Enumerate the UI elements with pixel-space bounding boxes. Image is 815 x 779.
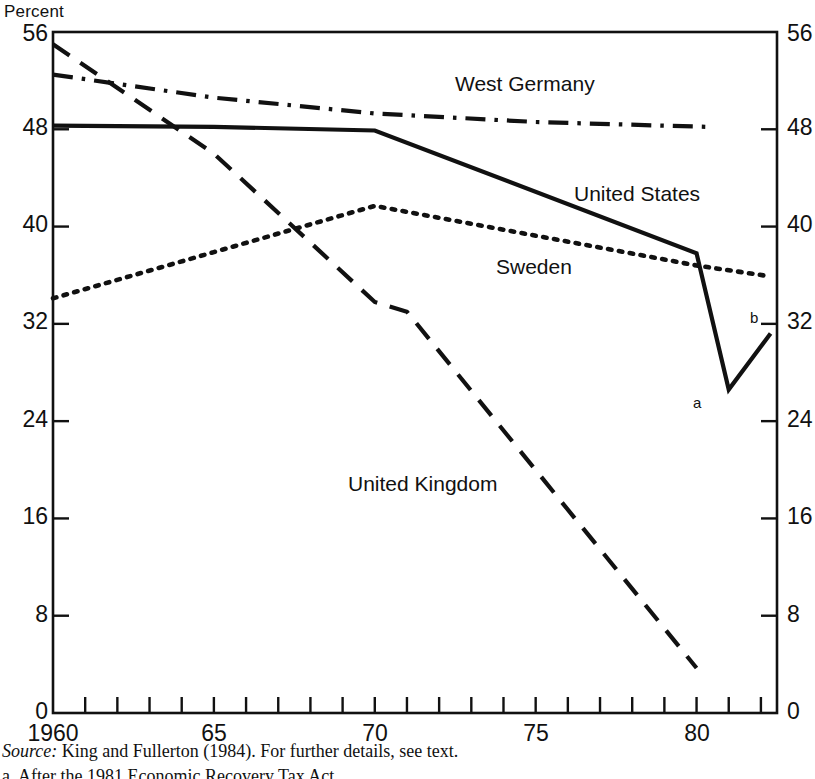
footnote-a: a. After the 1981 Economic Recovery Tax … <box>2 766 339 779</box>
source-note-prefix: Source: <box>2 741 57 761</box>
x-axis-ticks <box>85 697 761 713</box>
data-series-lines <box>53 44 771 668</box>
plot-area <box>0 0 815 779</box>
y-axis-ticks <box>53 129 777 615</box>
source-note: Source: King and Fullerton (1984). For f… <box>2 741 458 762</box>
series-line-west-germany <box>53 75 706 127</box>
source-note-text: King and Fullerton (1984). For further d… <box>62 741 458 761</box>
chart-figure: Percent 56 48 40 32 24 16 8 0 56 48 40 3… <box>0 0 815 779</box>
series-line-united-kingdom <box>53 44 697 668</box>
series-line-sweden <box>53 206 771 298</box>
axes-frame <box>53 32 777 713</box>
